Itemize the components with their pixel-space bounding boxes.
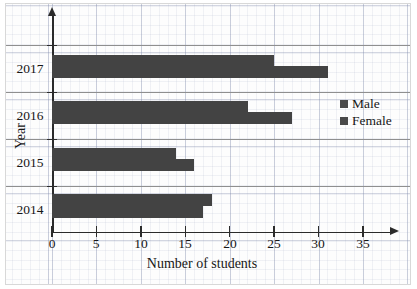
x-axis-arrow-icon — [390, 227, 399, 235]
category-separator — [6, 186, 410, 187]
y-axis-title: Year — [13, 106, 29, 166]
category-separator — [6, 92, 410, 93]
y-axis-tick — [47, 139, 57, 140]
bar-2016-male — [52, 101, 248, 112]
x-tick-label-5: 5 — [93, 237, 100, 251]
y-axis-arrow-icon — [48, 7, 56, 16]
y-tick-label-2014: 2014 — [11, 203, 49, 217]
legend-swatch-icon — [340, 117, 348, 125]
y-axis-tick — [47, 45, 57, 46]
x-tick-label-15: 15 — [178, 237, 192, 251]
legend-item-male: Male — [340, 97, 392, 111]
x-tick-label-25: 25 — [267, 237, 281, 251]
category-separator — [6, 45, 410, 46]
x-tick-label-20: 20 — [223, 237, 237, 251]
bar-2014-male — [52, 194, 212, 206]
y-tick-label-2017: 2017 — [11, 62, 49, 76]
legend-label-male: Male — [352, 97, 380, 111]
x-tick-label-0: 0 — [49, 237, 56, 251]
bar-2016-female — [52, 112, 292, 124]
x-tick-label-10: 10 — [134, 237, 148, 251]
bar-2017-female — [52, 66, 328, 78]
bar-2015-female — [52, 159, 194, 171]
legend-item-female: Female — [340, 114, 392, 128]
x-axis-line — [52, 232, 392, 234]
bar-2015-male — [52, 148, 176, 159]
bar-2014-female — [52, 206, 203, 218]
bar-chart: 2017 2016 2015 2014 0 5 10 15 20 25 30 3… — [0, 0, 417, 289]
category-separator — [6, 139, 410, 140]
x-tick-label-30: 30 — [311, 237, 325, 251]
legend-label-female: Female — [352, 114, 392, 128]
bar-2017-male — [52, 55, 274, 66]
x-axis-title: Number of students — [52, 256, 352, 272]
y-axis-tick — [47, 92, 57, 93]
y-axis-tick — [47, 186, 57, 187]
legend: Male Female — [340, 97, 392, 128]
legend-swatch-icon — [340, 100, 348, 108]
x-tick-label-35: 35 — [356, 237, 370, 251]
